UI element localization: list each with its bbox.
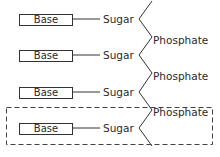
base-box: Base <box>19 87 73 99</box>
base-box: Base <box>19 50 73 62</box>
base-box: Base <box>19 14 73 26</box>
sugar-label: Sugar <box>103 49 134 61</box>
base-box: Base <box>19 123 73 135</box>
phosphate-label: Phosphate <box>153 34 208 46</box>
sugar-label: Sugar <box>103 86 134 98</box>
phosphate-label: Phosphate <box>153 106 208 118</box>
phosphate-label: Phosphate <box>153 70 208 82</box>
sugar-label: Sugar <box>103 122 134 134</box>
sugar-label: Sugar <box>103 13 134 25</box>
